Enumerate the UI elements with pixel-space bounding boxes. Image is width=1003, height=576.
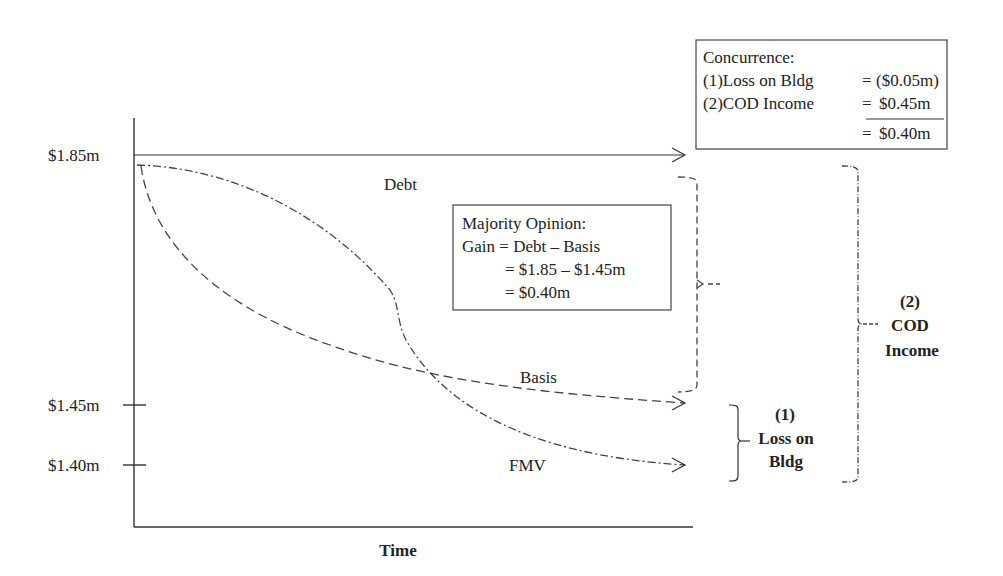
concurrence-row3-eq: = [862, 124, 872, 143]
loss-bracket-line2: Bldg [769, 452, 804, 471]
concurrence-title: Concurrence: [703, 48, 795, 67]
majority-bracket [678, 177, 720, 392]
cod-bracket [842, 166, 878, 482]
concurrence-row1-value: ($0.05m) [876, 71, 939, 90]
cod-bracket-line2: Income [885, 341, 939, 360]
concurrence-box: Concurrence: (1)Loss on Bldg = ($0.05m) … [696, 40, 947, 149]
y-label-185: $1.85m [48, 146, 99, 165]
majority-title: Majority Opinion: [462, 214, 586, 233]
concurrence-row3-value: $0.40m [879, 124, 930, 143]
concurrence-row2-eq: = [862, 94, 872, 113]
diagram-canvas: $1.85m $1.45m $1.40m Time Debt Basis FMV… [0, 0, 1003, 576]
loss-bracket [729, 405, 750, 481]
y-label-145: $1.45m [48, 396, 99, 415]
debt-line [134, 148, 685, 162]
majority-opinion-box: Majority Opinion: Gain = Debt – Basis = … [453, 205, 671, 310]
cod-bracket-number: (2) [900, 292, 920, 311]
concurrence-row1-eq: = [862, 71, 872, 90]
loss-bracket-number: (1) [775, 405, 795, 424]
concurrence-row2-value: $0.45m [879, 94, 930, 113]
concurrence-row2-label: (2)COD Income [703, 94, 814, 113]
majority-line2: = $1.85 – $1.45m [505, 260, 626, 279]
cod-bracket-line1: COD [891, 316, 929, 335]
basis-label: Basis [520, 368, 557, 387]
majority-line1: Gain = Debt – Basis [462, 237, 600, 256]
y-label-140: $1.40m [48, 456, 99, 475]
concurrence-row1-label: (1)Loss on Bldg [703, 71, 814, 90]
x-axis-label: Time [379, 541, 417, 560]
loss-bracket-line1: Loss on [758, 429, 814, 448]
majority-line3: = $0.40m [505, 283, 570, 302]
fmv-label: FMV [509, 456, 547, 475]
debt-label: Debt [384, 175, 417, 194]
